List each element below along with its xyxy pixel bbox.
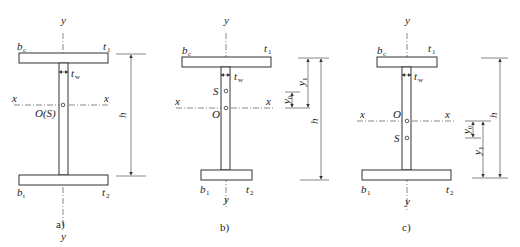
centroid-point xyxy=(405,119,409,123)
svg-text:2: 2 xyxy=(106,192,110,200)
top-flange xyxy=(182,57,271,67)
svg-text:0: 0 xyxy=(466,125,474,129)
svg-text:1: 1 xyxy=(477,146,485,150)
y-label-top: y xyxy=(404,14,410,26)
h-label: h xyxy=(487,112,499,118)
centroid-point xyxy=(61,103,65,107)
svg-text:w: w xyxy=(238,76,244,84)
y-label-bottom: y xyxy=(404,195,410,207)
svg-text:c: c xyxy=(188,50,191,58)
svg-text:1: 1 xyxy=(268,48,272,56)
shear-center-point xyxy=(405,136,409,140)
svg-text:1: 1 xyxy=(301,77,309,81)
panel-b: y y x x b c t 1 t w S O b 1 t 2 y 0 y 1 … xyxy=(174,14,329,234)
h-label: h xyxy=(116,112,128,118)
svg-text:1: 1 xyxy=(107,46,111,54)
top-flange xyxy=(19,53,108,63)
y-label-top: y xyxy=(60,14,66,26)
web xyxy=(402,67,411,170)
svg-text:w: w xyxy=(418,76,424,84)
caption-b: b) xyxy=(220,221,230,234)
shear-center-point xyxy=(224,89,228,93)
y-label-bottom: y xyxy=(223,193,229,205)
y-label-top: y xyxy=(223,14,229,26)
svg-text:1: 1 xyxy=(367,189,371,197)
y-label-bottom: y xyxy=(60,230,66,242)
x-label-left: x xyxy=(11,92,17,104)
web xyxy=(59,63,68,175)
svg-text:0: 0 xyxy=(286,95,294,99)
x-label-left: x xyxy=(359,108,365,120)
top-flange xyxy=(377,57,437,67)
svg-text:1: 1 xyxy=(206,189,210,197)
svg-text:c: c xyxy=(383,50,386,58)
svg-text:w: w xyxy=(75,73,81,81)
x-label-right: x xyxy=(265,95,271,107)
centroid-label: O xyxy=(212,108,220,120)
caption-a: a) xyxy=(56,218,65,231)
panel-a: y y x x b c t 1 t w O(S) b t t 2 h a) xyxy=(11,14,146,242)
svg-text:1: 1 xyxy=(432,48,436,56)
x-label-right: x xyxy=(444,108,450,120)
bottom-flange xyxy=(19,175,108,185)
svg-text:c: c xyxy=(23,46,26,54)
shear-center-label: S xyxy=(213,85,219,97)
centroid-point xyxy=(224,106,228,110)
centroid-label: O(S) xyxy=(35,107,56,120)
x-label-right: x xyxy=(103,92,109,104)
bottom-flange xyxy=(201,170,252,180)
caption-c: c) xyxy=(402,221,411,234)
panel-c: y y x x b c t 1 t w O S b 1 t 2 y 0 y 1 … xyxy=(357,14,508,234)
shear-center-label: S xyxy=(394,132,400,144)
bottom-flange xyxy=(362,170,451,180)
centroid-label: O xyxy=(393,108,401,120)
h-label: h xyxy=(308,118,320,124)
i-beam-sections-diagram: y y x x b c t 1 t w O(S) b t t 2 h a) y xyxy=(0,0,520,247)
x-label-left: x xyxy=(174,95,180,107)
svg-text:t: t xyxy=(23,192,25,200)
svg-text:2: 2 xyxy=(250,189,254,197)
web xyxy=(221,67,230,170)
svg-text:2: 2 xyxy=(450,189,454,197)
